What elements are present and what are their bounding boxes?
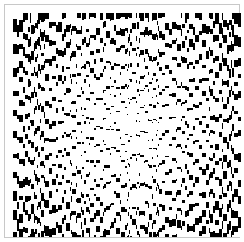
halftone-image — [13, 13, 241, 237]
page-root — [0, 0, 244, 242]
image-frame — [4, 4, 240, 238]
